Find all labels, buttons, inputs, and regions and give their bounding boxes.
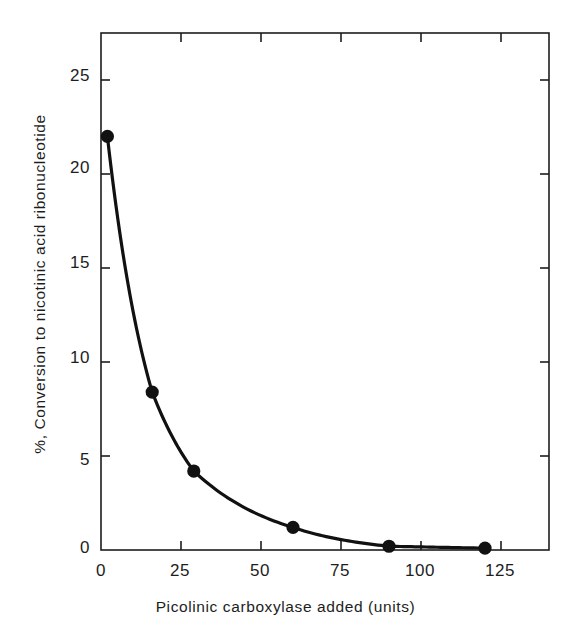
data-point-3 bbox=[286, 521, 299, 534]
y-tick-label-10: 10 bbox=[50, 348, 90, 368]
data-point-5 bbox=[478, 542, 491, 555]
data-point-0 bbox=[101, 130, 114, 143]
x-tick-label-50: 50 bbox=[237, 561, 283, 581]
data-curve bbox=[107, 136, 485, 548]
x-axis-title: Picolinic carboxylase added (units) bbox=[0, 598, 571, 616]
data-point-2 bbox=[187, 464, 200, 477]
x-tick-label-0: 0 bbox=[78, 561, 124, 581]
axis-ticks bbox=[101, 33, 549, 550]
x-tick-label-125: 125 bbox=[477, 561, 523, 581]
y-tick-label-5: 5 bbox=[50, 450, 90, 470]
y-axis-title: %, Conversion to nicotinic acid ribonucl… bbox=[31, 29, 49, 539]
data-markers bbox=[101, 130, 492, 555]
y-axis-title-container: %, Conversion to nicotinic acid ribonucl… bbox=[0, 0, 50, 580]
y-tick-label-20: 20 bbox=[50, 158, 90, 178]
x-tick-label-100: 100 bbox=[397, 561, 443, 581]
y-tick-label-15: 15 bbox=[50, 253, 90, 273]
data-point-1 bbox=[146, 385, 159, 398]
chart-figure: %, Conversion to nicotinic acid ribonucl… bbox=[0, 0, 571, 642]
x-tick-label-25: 25 bbox=[157, 561, 203, 581]
y-tick-label-25: 25 bbox=[50, 66, 90, 86]
y-tick-label-0: 0 bbox=[50, 538, 90, 558]
x-tick-label-75: 75 bbox=[317, 561, 363, 581]
plot-frame bbox=[101, 33, 549, 550]
data-point-4 bbox=[382, 540, 395, 553]
